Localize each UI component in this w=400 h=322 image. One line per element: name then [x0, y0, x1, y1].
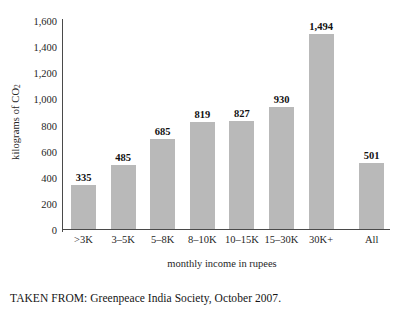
x-axis-tick-label: >3K	[74, 234, 93, 245]
y-axis-tick-label: 1,000	[33, 94, 57, 105]
x-axis-tick-label: 8–10K	[188, 234, 217, 245]
y-axis-tick-label: 400	[41, 172, 57, 183]
y-axis-tick-label: 1,200	[33, 68, 57, 79]
bar: 82710–15K	[229, 121, 254, 229]
bar-value-label: 827	[234, 108, 250, 119]
bar-value-label: 1,494	[309, 21, 333, 32]
source-caption: TAKEN FROM: Greenpeace India Society, Oc…	[10, 292, 281, 304]
bar: 335>3K	[71, 185, 96, 229]
x-axis-tick-label: 15–30K	[265, 234, 299, 245]
y-axis-title-text: kilograms of CO	[10, 88, 21, 160]
x-axis-tick-label: 3–5K	[111, 234, 134, 245]
bar: 93015–30K	[269, 107, 294, 228]
bar: 1,49430K+	[309, 34, 334, 229]
x-axis-tick-label: All	[365, 234, 378, 245]
bar-value-label: 485	[115, 152, 131, 163]
y-axis-tick-label: 800	[41, 120, 57, 131]
bar-value-label: 930	[274, 94, 290, 105]
y-axis-tick-label: 0	[52, 225, 57, 236]
x-axis-line	[62, 229, 390, 230]
y-axis-tick-label: 1,400	[33, 42, 57, 53]
y-axis-title: kilograms of CO2	[10, 62, 22, 182]
plot-area: 02004006008001,0001,2001,4001,600 335>3K…	[62, 21, 392, 230]
bar: 8198–10K	[190, 122, 215, 229]
x-axis-tick-label: 30K+	[309, 234, 333, 245]
y-axis-title-subscript: 2	[13, 84, 22, 88]
y-axis-tick-label: 200	[41, 198, 57, 209]
y-axis-tick-label: 1,600	[33, 16, 57, 27]
x-axis-title: monthly income in rupees	[62, 258, 382, 269]
x-axis-tick-label: 5–8K	[151, 234, 174, 245]
bar: 6855–8K	[150, 139, 175, 228]
bar-value-label: 819	[194, 109, 210, 120]
bar-value-label: 501	[364, 150, 380, 161]
bar-value-label: 685	[155, 126, 171, 137]
y-axis-tick-label: 600	[41, 146, 57, 157]
y-axis-line	[62, 19, 63, 232]
bar: 4853–5K	[111, 165, 136, 228]
bar-chart-figure: kilograms of CO2 02004006008001,0001,200…	[0, 0, 400, 322]
bar-value-label: 335	[76, 172, 92, 183]
bar: 501All	[359, 163, 384, 228]
x-axis-tick-label: 10–15K	[225, 234, 259, 245]
